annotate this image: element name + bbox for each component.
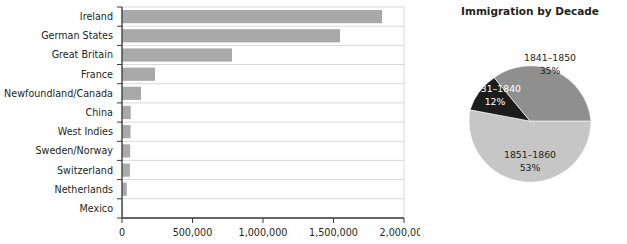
- category-label-netherlands: Netherlands: [55, 184, 113, 195]
- pie-percent-1831-1840: 12%: [485, 96, 506, 107]
- category-label-newfoundland-canada: Newfoundland/Canada: [4, 88, 113, 99]
- pie-label-1831-1840: 1831–1840: [469, 83, 521, 94]
- x-tick-label-1500k: 1,500,000: [309, 227, 358, 238]
- category-label-sweden-norway: Sweden/Norway: [35, 145, 113, 156]
- category-label-france: France: [81, 69, 113, 80]
- pie-percent-1841-1850: 35%: [540, 65, 561, 76]
- category-label-mexico: Mexico: [80, 203, 114, 214]
- x-tick-label-2000k: 2,000,000: [380, 227, 420, 238]
- bar-great-britain: [122, 48, 232, 61]
- immigration-by-decade-pie-chart: Immigration by Decade 1841–1850 35% 1831…: [420, 0, 627, 244]
- bar-ireland: [122, 10, 382, 23]
- category-label-great-britain: Great Britain: [52, 49, 113, 60]
- y-axis-category-labels: Ireland German States Great Britain Fran…: [4, 11, 113, 214]
- y-axis-tick-marks: [117, 7, 122, 218]
- category-label-west-indies: West Indies: [58, 126, 113, 137]
- x-tick-label-1000k: 1,000,000: [239, 227, 288, 238]
- horizontal-bar-chart: Ireland German States Great Britain Fran…: [0, 0, 420, 244]
- bar-france: [122, 68, 155, 81]
- category-label-german-states: German States: [41, 30, 113, 41]
- bar-west-indies: [122, 125, 131, 138]
- category-label-ireland: Ireland: [80, 11, 113, 22]
- pie-chart-title: Immigration by Decade: [461, 5, 599, 17]
- pie-percent-1851-1860: 53%: [520, 162, 541, 173]
- bar-sweden-norway: [122, 144, 130, 157]
- pie-label-1851-1860: 1851–1860: [504, 149, 556, 160]
- category-label-switzerland: Switzerland: [57, 165, 113, 176]
- bar-newfoundland-canada: [122, 87, 141, 100]
- x-axis-tick-labels: 0 500,000 1,000,000 1,500,000 2,000,000: [119, 227, 420, 238]
- pie-label-1841-1850: 1841–1850: [524, 52, 576, 63]
- bar-switzerland: [122, 164, 130, 177]
- x-axis-tick-marks: [122, 218, 404, 223]
- bar-netherlands: [122, 183, 127, 196]
- x-tick-label-500k: 500,000: [173, 227, 213, 238]
- category-label-china: China: [86, 107, 113, 118]
- bar-german-states: [122, 29, 340, 42]
- x-tick-label-0: 0: [119, 227, 125, 238]
- bar-china: [122, 106, 131, 119]
